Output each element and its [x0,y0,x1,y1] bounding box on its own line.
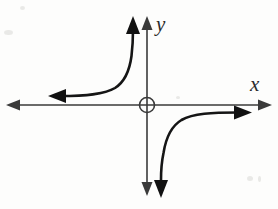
hyperbola-branch-4-path [161,113,238,181]
hyperbola-branch-2-left-arrowhead [48,89,66,103]
axes-group [6,16,272,196]
hyperbola-branch-4-right-arrowhead [234,106,252,120]
x-axis-left-arrowhead [6,100,20,111]
y-axis-down-arrowhead [142,182,153,196]
hyperbola-branch-quadrant-4 [154,106,252,199]
hyperbola-branch-2-path [60,30,133,96]
y-axis-label: y [156,14,165,35]
hyperbola-branch-4-down-arrowhead [154,180,168,198]
hyperbola-branch-quadrant-2 [48,16,140,103]
hyperbola-figure: y x [0,0,278,209]
x-axis-label: x [250,74,259,95]
y-axis-up-arrowhead [142,16,153,30]
x-axis-right-arrowhead [258,100,272,111]
hyperbola-branch-2-up-arrowhead [126,16,140,34]
graph-canvas [0,0,278,209]
